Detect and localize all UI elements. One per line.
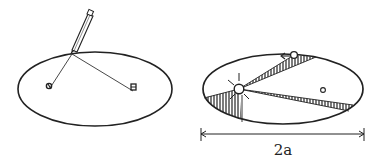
kepler-orbit-panel: 2a (201, 52, 364, 159)
empty-focus-icon (321, 88, 326, 93)
major-axis-dimension: 2a (201, 128, 364, 159)
pin-right-focus-icon (131, 84, 136, 90)
shaded-sector-perihelion (203, 89, 242, 125)
major-axis-label: 2a (274, 141, 293, 159)
pencil-icon (70, 9, 94, 55)
string-construction-panel (18, 9, 172, 126)
planet-icon (291, 52, 298, 59)
figure-canvas: 2a (0, 0, 376, 164)
drawn-ellipse (18, 52, 172, 126)
string (50, 54, 133, 91)
